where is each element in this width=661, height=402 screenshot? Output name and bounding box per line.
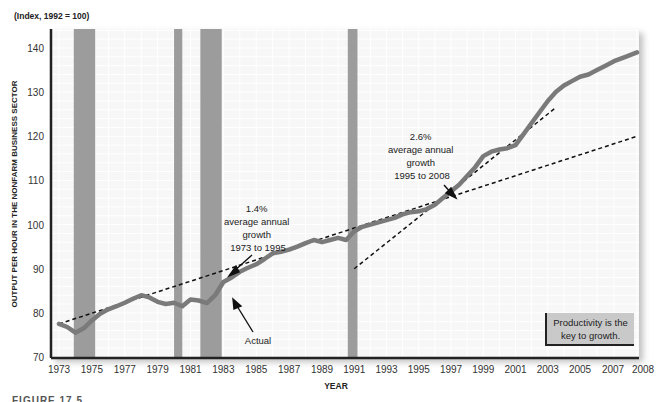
recession-bar bbox=[74, 29, 95, 358]
x-tick-label: 1999 bbox=[472, 364, 495, 375]
x-axis-title: YEAR bbox=[324, 381, 348, 391]
units-note: (Index, 1992 = 100) bbox=[14, 11, 90, 21]
x-tick-label: 1973 bbox=[48, 364, 71, 375]
x-tick-label: 1995 bbox=[408, 364, 431, 375]
figure-caption-cropped: FIGURE 17.5 bbox=[12, 396, 83, 402]
x-tick-label: 1997 bbox=[440, 364, 463, 375]
x-tick-label: 1983 bbox=[212, 364, 235, 375]
y-tick-label: 100 bbox=[27, 220, 44, 231]
callout-line-2: key to growth. bbox=[547, 329, 634, 342]
plot-area bbox=[51, 29, 639, 358]
recession-bar bbox=[348, 29, 358, 358]
y-tick-label: 80 bbox=[33, 308, 45, 319]
y-tick-label: 70 bbox=[33, 352, 45, 363]
y-tick-label: 140 bbox=[27, 43, 44, 54]
y-tick-label: 90 bbox=[33, 264, 45, 275]
x-tick-label: 1975 bbox=[81, 364, 104, 375]
recession-bar bbox=[174, 29, 182, 358]
x-tick-label: 2005 bbox=[569, 364, 592, 375]
x-tick-label: 1993 bbox=[375, 364, 398, 375]
y-tick-label: 110 bbox=[28, 175, 44, 186]
x-tick-label: 1987 bbox=[278, 364, 301, 375]
x-tick-label: 2003 bbox=[537, 364, 560, 375]
x-tick-label: 1985 bbox=[245, 364, 268, 375]
callout-box: Productivity is the key to growth. bbox=[545, 313, 634, 346]
y-tick-label: 120 bbox=[27, 131, 44, 142]
x-tick-label: 1979 bbox=[147, 364, 170, 375]
actual-label: Actual bbox=[245, 335, 271, 346]
y-tick-labels: 708090100110120130140 bbox=[27, 43, 44, 363]
x-tick-label: 1991 bbox=[343, 364, 366, 375]
x-tick-label: 2008 bbox=[632, 364, 655, 375]
y-tick-label: 130 bbox=[27, 87, 44, 98]
x-tick-label: 1981 bbox=[179, 364, 202, 375]
x-tick-label: 2001 bbox=[504, 364, 527, 375]
x-tick-label: 1977 bbox=[114, 364, 137, 375]
x-tick-label: 2007 bbox=[602, 364, 625, 375]
recession-bar bbox=[200, 29, 221, 358]
x-tick-label: 1989 bbox=[311, 364, 334, 375]
x-tick-labels: 1973197519771979198119831985198719891991… bbox=[48, 364, 655, 375]
callout-line-1: Productivity is the bbox=[547, 316, 634, 329]
y-axis-title: OUTPUT PER HOUR IN THE NONFARM BUSINESS … bbox=[10, 80, 19, 307]
